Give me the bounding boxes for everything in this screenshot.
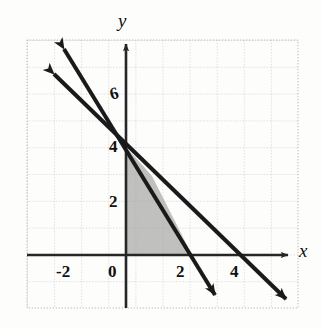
coordinate-plane [0, 0, 321, 328]
graph-figure: y x -2 0 2 4 2 4 6 [0, 0, 321, 328]
x-tick-2: 2 [176, 262, 185, 282]
y-tick-4: 4 [109, 137, 118, 157]
x-tick-0: 0 [108, 262, 117, 282]
x-tick-minus2: -2 [56, 262, 70, 282]
y-tick-2: 2 [109, 192, 118, 212]
x-tick-4: 4 [230, 262, 239, 282]
y-axis-label: y [118, 10, 126, 32]
x-axis-label: x [299, 240, 307, 262]
